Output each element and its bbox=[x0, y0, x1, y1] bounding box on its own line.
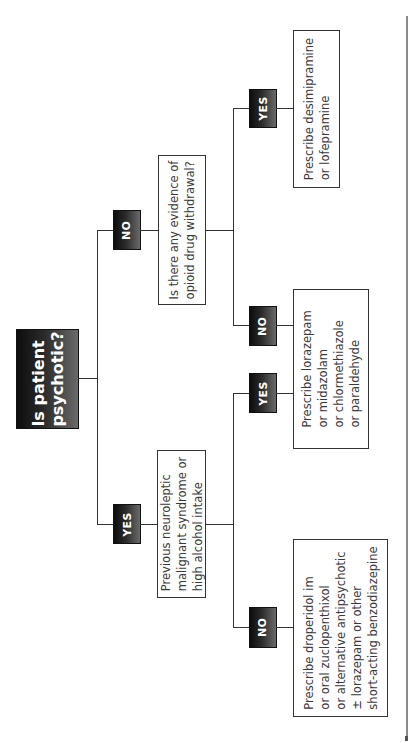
tag-yes-level1: YES bbox=[114, 505, 140, 543]
connector-opioid-to-yes bbox=[233, 108, 250, 109]
connector-no-tag-to-question bbox=[140, 230, 158, 231]
connector-tag-to-outcome bbox=[276, 108, 293, 109]
text-line: Prescribe desimipramine bbox=[301, 38, 317, 180]
text-line: or midazolam bbox=[315, 310, 331, 427]
tag-no-neuroleptic-label: NO bbox=[256, 618, 269, 637]
connector-neuroleptic-to-no bbox=[233, 627, 250, 628]
connector-opioid-stem bbox=[206, 230, 234, 231]
connector-neuroleptic-stem bbox=[206, 524, 234, 525]
text-line: Prescribe droperidol im bbox=[301, 546, 317, 709]
root-label-line-1: Is patient bbox=[29, 331, 48, 426]
text-line: ± lorazepam or other bbox=[349, 546, 365, 709]
connector-yes-tag-to-question bbox=[140, 524, 158, 525]
connector-neuroleptic-to-yes bbox=[233, 393, 250, 394]
outcome-droperidol: Prescribe droperidol im or oral zuclopen… bbox=[293, 539, 388, 717]
connector-root-stem bbox=[78, 378, 98, 379]
tag-yes-neuroleptic: YES bbox=[250, 374, 276, 412]
connector-tag-to-outcome bbox=[276, 325, 293, 326]
connector-opioid-to-no bbox=[233, 325, 250, 326]
outcome-text: Prescribe droperidol im or oral zuclopen… bbox=[301, 546, 381, 709]
root-node-label: Is patient psychotic? bbox=[29, 331, 67, 426]
question-opioid-withdrawal-text: Is there any evidence of opioid drug wit… bbox=[166, 161, 198, 300]
text-line: malignant syndrome or bbox=[174, 457, 190, 591]
text-line: high alcohol intake bbox=[190, 457, 206, 591]
question-neuroleptic-alcohol-text: Previous neuroleptic malignant syndrome … bbox=[158, 457, 206, 591]
page-rule-end-mark bbox=[405, 736, 408, 741]
text-line: Previous neuroleptic bbox=[158, 457, 174, 591]
connector-root-to-no bbox=[97, 230, 114, 231]
root-node-is-patient-psychotic: Is patient psychotic? bbox=[17, 330, 78, 428]
outcome-lorazepam-no-opioid: Prescribe lorazepam or midazolam or chlo… bbox=[293, 289, 369, 449]
page-rule bbox=[406, 16, 408, 736]
text-line: or alternative antipsychotic bbox=[333, 546, 349, 709]
connector-root-spine bbox=[97, 230, 98, 525]
connector-neuroleptic-spine bbox=[233, 393, 234, 628]
text-line: Prescribe lorazepam bbox=[299, 310, 315, 427]
tag-yes-opioid-label: YES bbox=[257, 96, 270, 120]
text-line: or paraldehyde bbox=[347, 310, 363, 427]
text-line: or chlormethiazole bbox=[331, 310, 347, 427]
outcome-desimipramine-lofepramine: Prescribe desimipramine or lofepramine bbox=[293, 30, 340, 188]
text-line: or lofepramine bbox=[317, 38, 333, 180]
connector-root-to-yes bbox=[97, 524, 114, 525]
connector-tag-to-outcome bbox=[276, 393, 293, 394]
connector-tag-to-outcome bbox=[276, 627, 293, 628]
tag-no-level1-label: NO bbox=[120, 220, 133, 239]
text-line: Is there any evidence of bbox=[166, 161, 182, 300]
text-line: or oral zuclopenthixol bbox=[317, 546, 333, 709]
root-label-line-2: psychotic? bbox=[48, 331, 67, 426]
connector-opioid-spine bbox=[233, 108, 234, 326]
tag-no-opioid-label: NO bbox=[256, 316, 269, 335]
tag-no-level1: NO bbox=[114, 211, 140, 249]
question-opioid-withdrawal: Is there any evidence of opioid drug wit… bbox=[158, 155, 206, 305]
outcome-text: Prescribe lorazepam or midazolam or chlo… bbox=[299, 310, 363, 427]
text-line: short-acting benzodiazepine bbox=[365, 546, 381, 709]
tag-yes-neuroleptic-label: YES bbox=[257, 381, 270, 405]
outcome-text: Prescribe desimipramine or lofepramine bbox=[301, 38, 333, 180]
tag-no-opioid: NO bbox=[250, 307, 276, 345]
tag-no-neuroleptic: NO bbox=[250, 608, 276, 647]
question-neuroleptic-alcohol: Previous neuroleptic malignant syndrome … bbox=[157, 450, 206, 598]
tag-yes-opioid: YES bbox=[250, 90, 276, 127]
text-line: opioid drug withdrawal? bbox=[182, 161, 198, 300]
tag-yes-level1-label: YES bbox=[121, 512, 134, 536]
